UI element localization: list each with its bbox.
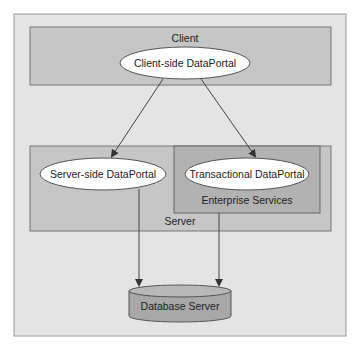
transactional-portal-label: Transactional DataPortal xyxy=(189,168,304,180)
client-portal-label: Client-side DataPortal xyxy=(134,57,236,69)
server-portal-label: Server-side DataPortal xyxy=(50,168,156,180)
architecture-diagram: Client Client-side DataPortal Enterprise… xyxy=(0,0,357,348)
server-label: Server xyxy=(165,215,196,227)
enterprise-services-label: Enterprise Services xyxy=(201,194,292,206)
database-label: Database Server xyxy=(141,300,220,312)
client-label: Client xyxy=(172,32,199,44)
